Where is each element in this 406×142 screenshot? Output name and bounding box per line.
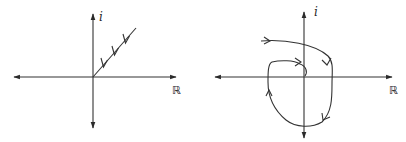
left-ray-direction-arrows <box>101 34 130 67</box>
right-imaginary-axis-label: i <box>314 6 318 18</box>
left-real-axis-label: ℝ <box>172 85 181 96</box>
contour-diagrams <box>0 0 406 142</box>
right-panel <box>215 12 392 138</box>
left-imaginary-axis-label: i <box>99 11 103 23</box>
right-contour-direction-arrows <box>264 37 331 120</box>
left-panel <box>14 14 176 128</box>
left-ray-contour <box>93 28 136 77</box>
right-real-axis-label: ℝ <box>389 85 398 96</box>
